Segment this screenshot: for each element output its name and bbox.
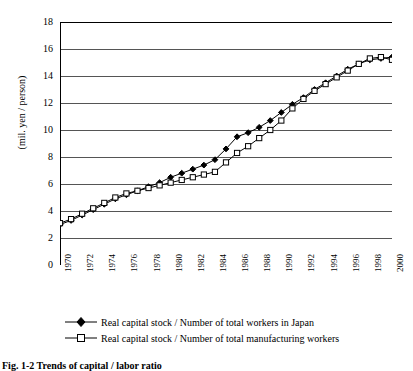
chart-svg (60, 22, 392, 265)
y-tick-label: 2 (27, 233, 53, 243)
figure-caption: Fig. 1-2 Trends of capital / labor ratio (2, 360, 411, 371)
data-series-layer (60, 54, 392, 227)
axis-ticks (60, 22, 392, 265)
y-tick-label: 10 (27, 125, 53, 135)
legend-item: Real capital stock / Number of total man… (64, 330, 339, 346)
y-tick-label: 4 (27, 206, 53, 216)
y-tick-label: 8 (27, 152, 53, 162)
gridlines (60, 22, 392, 238)
x-tick-label: 2000 (396, 254, 405, 272)
y-tick-label: 0 (27, 260, 53, 270)
legend-label: Real capital stock / Number of total man… (101, 333, 339, 344)
legend-label: Real capital stock / Number of total wor… (101, 317, 314, 328)
y-axis-title: (mil. yen / person) (16, 43, 27, 183)
legend-item: Real capital stock / Number of total wor… (64, 314, 339, 330)
y-tick-label: 18 (27, 17, 53, 27)
figure-container: (mil. yen / person) 024681012141618 1970… (0, 0, 413, 371)
filled-diamond-icon (64, 316, 98, 328)
open-square-icon (64, 332, 98, 344)
chart-legend: Real capital stock / Number of total wor… (64, 314, 339, 346)
plot-area (60, 22, 392, 265)
plot-frame (60, 22, 392, 265)
y-tick-label: 16 (27, 44, 53, 54)
y-tick-label: 14 (27, 71, 53, 81)
y-tick-label: 12 (27, 98, 53, 108)
y-tick-label: 6 (27, 179, 53, 189)
